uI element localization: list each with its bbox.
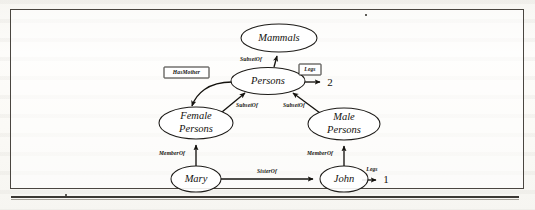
edge-label-subsetof-mammals: SubsetOf xyxy=(240,56,263,62)
edge-persons-hasmother-female xyxy=(192,82,232,106)
edge-label-memberof-john: MemberOf xyxy=(306,150,334,156)
node-female-persons[interactable]: Female Persons xyxy=(159,107,233,139)
scan-speck-top-icon xyxy=(365,14,367,16)
scanned-page: SubsetOf SubsetOf SubsetOf MemberOf Me xyxy=(0,0,535,210)
edge-label-legs-persons: Legs xyxy=(303,66,315,72)
node-label-male-persons-line2: Persons xyxy=(326,124,361,135)
edge-line xyxy=(274,56,277,67)
boxed-label-hasmother: HasMother xyxy=(164,67,209,78)
node-label-female-persons-line1: Female xyxy=(179,110,212,121)
edge-label-memberof-mary: MemberOf xyxy=(158,150,186,156)
edge-label-legs-john: Legs xyxy=(365,166,377,172)
edge-label-subsetof-male: SubsetOf xyxy=(283,102,306,108)
edge-persons-subsetof-mammals: SubsetOf xyxy=(240,56,277,67)
edge-mary-sisterof-john: SisterOf xyxy=(221,168,313,179)
edge-label-sisterof: SisterOf xyxy=(257,168,278,174)
page-bottom-rule-secondary xyxy=(11,199,519,200)
value-label-legs-john: 1 xyxy=(383,173,389,185)
node-mary[interactable]: Mary xyxy=(171,166,221,192)
node-label-persons: Persons xyxy=(250,75,285,86)
node-label-female-persons-line2: Persons xyxy=(178,123,213,134)
boxed-label-legs-persons: Legs xyxy=(299,64,321,75)
node-label-mammals: Mammals xyxy=(257,32,299,43)
node-label-male-persons-line1: Male xyxy=(332,111,355,122)
edge-line-curved xyxy=(192,82,232,106)
edge-label-subsetof-female: SubsetOf xyxy=(236,102,259,108)
node-label-mary: Mary xyxy=(184,173,208,184)
edge-mary-memberof-female: MemberOf xyxy=(158,145,196,166)
edge-label-hasmother: HasMother xyxy=(172,69,201,75)
node-male-persons[interactable]: Male Persons xyxy=(308,108,380,140)
value-label-legs-persons: 2 xyxy=(327,76,333,88)
scan-speck-bottom-icon xyxy=(65,194,67,196)
node-mammals[interactable]: Mammals xyxy=(241,24,317,52)
node-persons[interactable]: Persons xyxy=(231,68,305,95)
node-label-john: John xyxy=(334,173,354,184)
page-bottom-rule xyxy=(11,196,519,198)
semantic-network-graph: SubsetOf SubsetOf SubsetOf MemberOf Me xyxy=(0,0,535,210)
edge-male-subsetof-persons: SubsetOf xyxy=(283,93,320,113)
node-john[interactable]: John xyxy=(320,166,368,192)
edge-john-memberof-male: MemberOf xyxy=(306,146,344,166)
edge-female-subsetof-persons: SubsetOf xyxy=(222,93,259,112)
